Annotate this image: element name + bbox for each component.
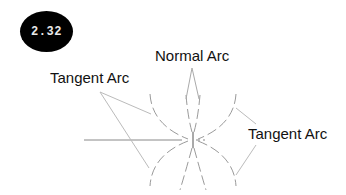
normal-arc-upper-right — [194, 95, 200, 132]
tangent-left-leader-lower — [100, 92, 149, 168]
tangent-arc-upper-left — [150, 94, 188, 139]
arc-diagram — [0, 0, 346, 195]
tangent-right-leader-lower — [236, 145, 256, 175]
tangent-arc-upper-right — [198, 94, 236, 139]
normal-arc-lower-left — [180, 148, 192, 190]
tangent-right-leader-upper — [236, 108, 256, 124]
normal-arc-leader — [186, 68, 199, 99]
normal-arc-lower-right — [194, 148, 206, 190]
tangent-arc-lower-right — [198, 141, 236, 186]
normal-arc-upper-left — [186, 95, 192, 132]
tangent-arc-lower-left — [150, 141, 188, 186]
